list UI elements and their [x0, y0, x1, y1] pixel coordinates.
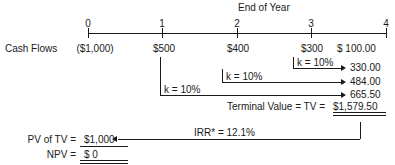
npv-underline-outer	[80, 163, 128, 164]
compounding-arrow-line-330	[293, 68, 342, 69]
npv-label: NPV =	[47, 149, 76, 160]
terminal-value-label: Terminal Value = TV =	[227, 101, 325, 112]
compounding-future-value-665: 665.50	[350, 89, 381, 100]
timeline-tick-0	[88, 28, 89, 38]
pv-of-tv-underline	[80, 146, 128, 147]
cash-flow-value-year-3: $300	[301, 43, 323, 54]
compounding-arrow-line-484	[222, 82, 342, 83]
irr-arrow-line	[118, 139, 360, 140]
diagram-title: End of Year	[238, 2, 290, 13]
compounding-rate-label-330: k = 10%	[297, 57, 333, 68]
compounding-arrow-head-484	[341, 79, 346, 85]
compounding-drop-year-1	[160, 57, 161, 95]
irr-label: IRR* = 12.1%	[194, 127, 255, 138]
npv-underline-inner	[80, 160, 128, 161]
timeline-tick-2	[237, 28, 238, 38]
irr-arrow-drop	[360, 122, 361, 139]
cash-flow-value-year-1: $500	[153, 43, 175, 54]
compounding-future-value-484: 484.00	[350, 76, 381, 87]
timeline-tick-1	[162, 28, 163, 38]
compounding-rate-label-665: k = 10%	[164, 84, 200, 95]
cash-flow-value-year-2: $400	[227, 43, 249, 54]
npv-value: $ 0	[84, 149, 98, 160]
timeline-tick-4	[386, 28, 387, 38]
compounding-drop-year-3	[293, 57, 294, 68]
cash-flow-value-year-4: $ 100.00	[337, 43, 376, 54]
pv-of-tv-value: $1,000	[84, 134, 115, 145]
compounding-future-value-330: 330.00	[350, 62, 381, 73]
cash-flows-row-label: Cash Flows	[5, 43, 57, 54]
compounding-arrow-line-665	[160, 95, 342, 96]
pv-of-tv-label: PV of TV =	[28, 134, 76, 145]
compounding-arrow-head-330	[341, 65, 346, 71]
compounding-arrow-head-665	[341, 92, 346, 98]
timeline-tick-3	[311, 28, 312, 38]
compounding-drop-year-2	[222, 69, 223, 82]
compounding-rate-label-484: k = 10%	[226, 71, 262, 82]
terminal-value-underline-inner	[333, 112, 386, 113]
time-line-diagram: End of Year 0 1 2 3 4 Cash Flows ($1,000…	[0, 0, 395, 165]
cash-flow-value-year-0: ($1,000)	[76, 43, 113, 54]
terminal-value-underline-outer	[333, 115, 386, 116]
terminal-value-amount: $1,579.50	[333, 101, 378, 112]
